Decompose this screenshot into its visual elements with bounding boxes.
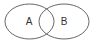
set-a-label: A <box>26 16 33 27</box>
venn-diagram: A B <box>0 0 94 43</box>
set-b-label: B <box>61 16 68 27</box>
